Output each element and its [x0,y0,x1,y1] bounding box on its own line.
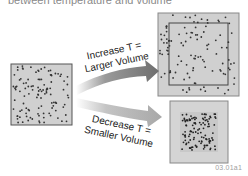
figure-id: 03.01a1 [215,164,242,171]
smaller-volume-box [170,101,228,163]
initial-volume-box [11,64,72,125]
temperature-volume-diagram: Increase T = Larger Volume Decrease T = … [0,0,248,176]
larger-volume-box [158,13,239,96]
